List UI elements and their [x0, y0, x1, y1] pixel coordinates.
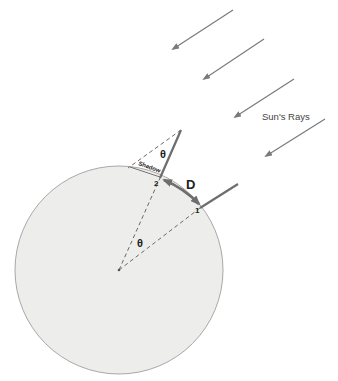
sun-ray-arrow-icon [173, 10, 233, 49]
point-1-label: 1 [195, 206, 200, 215]
earth-center-dot [118, 269, 121, 272]
sun-rays-label: Sun's Rays [262, 111, 310, 122]
distance-label: D [186, 177, 195, 192]
sun-ray-arrow-icon [266, 119, 325, 156]
sun-ray-arrow-icon [204, 39, 264, 79]
angle-top-label: θ [160, 148, 166, 160]
eratosthenes-diagram: Sun's Rays D θ θ Shadow 2 1 [0, 0, 338, 381]
angle-center-label: θ [137, 237, 143, 249]
sun-rays [173, 10, 325, 156]
point-2-label: 2 [154, 179, 159, 188]
ray-point-1 [200, 184, 238, 208]
